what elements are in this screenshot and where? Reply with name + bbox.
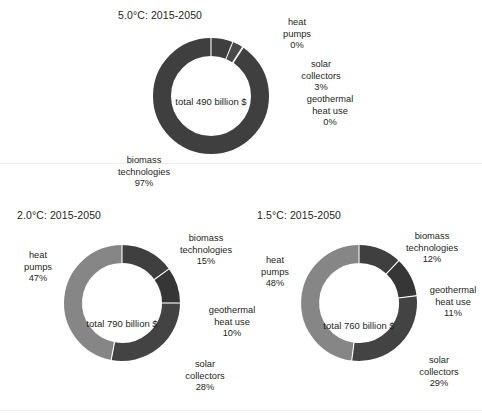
label-value: 12% [386, 254, 478, 266]
chart-2-0c-title: 2.0°C: 2015-2050 [17, 209, 101, 221]
label-heat-pumps-2-0c: heat pumps 47% [7, 250, 69, 285]
label-line: heat use [411, 297, 482, 309]
label-line: heat [7, 250, 69, 262]
label-value: 0% [266, 40, 328, 52]
chart-5-0c-title: 5.0°C: 2015-2050 [118, 9, 202, 21]
label-line: solar [399, 355, 479, 367]
chart-5-0c-center-total: total 490 billion $ [175, 96, 246, 107]
label-heat-pumps-1-5c: heat pumps 48% [244, 255, 306, 290]
label-geothermal-heat-use-1-5c: geothermal heat use 11% [411, 285, 482, 320]
label-line: biomass [386, 231, 478, 243]
slice-biomass-technologies[interactable] [122, 254, 162, 274]
label-line: biomass [160, 233, 252, 245]
chart-2-0c: 2.0°C: 2015-2050 [0, 203, 241, 417]
label-value: 97% [98, 178, 190, 190]
label-value: 47% [7, 273, 69, 285]
label-line: heat [244, 255, 306, 267]
label-line: collectors [165, 371, 245, 383]
label-biomass-technologies-2-0c: biomass technologies 15% [160, 233, 252, 268]
label-solar-collectors-5-0c: solar collectors 3% [284, 59, 358, 94]
label-heat-pumps-5-0c: heat pumps 0% [266, 17, 328, 52]
slice-heat-pumps[interactable] [310, 254, 359, 352]
label-line: collectors [284, 71, 358, 83]
label-biomass-technologies-5-0c: biomass technologies 97% [98, 155, 190, 190]
label-line: pumps [7, 262, 69, 274]
label-geothermal-heat-use-5-0c: geothermal heat use 0% [288, 94, 372, 129]
chart-2-0c-center-total: total 790 billion $ [86, 318, 157, 329]
label-line: geothermal [411, 285, 482, 297]
label-value: 48% [244, 278, 306, 290]
label-biomass-technologies-1-5c: biomass technologies 12% [386, 231, 478, 266]
label-line: collectors [399, 367, 479, 379]
label-value: 0% [288, 117, 372, 129]
slice-geothermal-heat-use[interactable] [162, 274, 171, 303]
label-value: 29% [399, 378, 479, 390]
label-line: solar [284, 59, 358, 71]
label-line: solar [165, 359, 245, 371]
label-line: heat [266, 17, 328, 29]
label-line: technologies [386, 243, 478, 255]
slice-solar-collectors[interactable] [229, 51, 238, 55]
label-line: biomass [98, 155, 190, 167]
label-line: technologies [98, 167, 190, 179]
label-line: pumps [266, 29, 328, 41]
slice-geothermal-heat-use[interactable] [393, 267, 408, 297]
label-value: 11% [411, 308, 482, 320]
chart-5-0c: 5.0°C: 2015-2050 total 490 billion $ [0, 0, 482, 200]
chart-1-5c-center-total: total 760 billion $ [323, 320, 394, 331]
label-value: 3% [284, 82, 358, 94]
chart-1-5c: 1.5°C: 2015-2050 [241, 203, 482, 417]
label-value: 28% [165, 382, 245, 394]
figure-canvas: 5.0°C: 2015-2050 total 490 billion $ [0, 0, 482, 417]
label-line: pumps [244, 267, 306, 279]
label-line: heat use [288, 106, 372, 118]
label-line: geothermal [288, 94, 372, 106]
slice-heat-pumps[interactable] [73, 254, 122, 351]
label-line: technologies [160, 245, 252, 257]
label-solar-collectors-2-0c: solar collectors 28% [165, 359, 245, 394]
label-solar-collectors-1-5c: solar collectors 29% [399, 355, 479, 390]
chart-1-5c-title: 1.5°C: 2015-2050 [257, 209, 341, 221]
label-value: 15% [160, 256, 252, 268]
